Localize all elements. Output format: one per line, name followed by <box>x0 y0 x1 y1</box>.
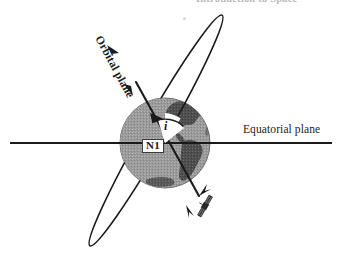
satellite-antenna <box>199 203 202 205</box>
arrow-icon-lower-b <box>186 205 194 218</box>
figure-canvas: Introduction to Space <box>0 0 340 258</box>
arrow-icon-lower-a <box>199 184 211 196</box>
inclination-angle-label: i <box>164 120 167 132</box>
satellite-icon <box>194 193 213 217</box>
equatorial-plane-label: Equatorial plane <box>243 124 320 136</box>
ascending-node-label: N1 <box>142 139 164 153</box>
south-america-shape <box>179 140 203 181</box>
